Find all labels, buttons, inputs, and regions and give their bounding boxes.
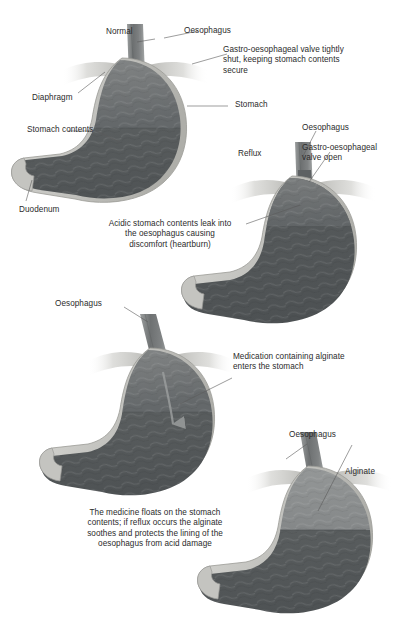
leader-lines-panel-3	[124, 307, 232, 404]
caption-valve-open: Gastro-oesophageal valve open	[302, 143, 377, 164]
label-oesophagus-panel-1: Oesophagus	[184, 26, 231, 36]
label-reflux: Reflux	[238, 149, 262, 159]
leader-lines-panel-1	[26, 31, 228, 201]
diagram-figure: Normal Oesophagus Gastro-oesophageal val…	[0, 0, 404, 635]
label-alginate: Alginate	[345, 467, 375, 477]
caption-valve-shut: Gastro-oesophageal valve tightly shut, k…	[223, 45, 344, 76]
label-oesophagus-panel-3: Oesophagus	[55, 299, 102, 309]
label-normal: Normal	[106, 27, 133, 37]
label-stomach-contents: Stomach contents	[27, 125, 93, 135]
panel-normal-art	[0, 24, 220, 218]
leader-lines-panel-4	[286, 444, 352, 511]
label-diaphragm: Diaphragm	[32, 93, 73, 103]
caption-alginate: The medicine floats on the stomach conte…	[62, 508, 248, 550]
caption-reflux: Acidic stomach contents leak into the oe…	[90, 219, 250, 250]
label-oesophagus-panel-2: Oesophagus	[302, 123, 349, 133]
label-stomach: Stomach	[235, 100, 268, 110]
panel-medication-art	[30, 314, 234, 504]
label-oesophagus-panel-4: Oesophagus	[289, 430, 336, 440]
label-duodenum: Duodenum	[19, 205, 59, 215]
caption-medication: Medication containing alginate enters th…	[233, 352, 345, 373]
